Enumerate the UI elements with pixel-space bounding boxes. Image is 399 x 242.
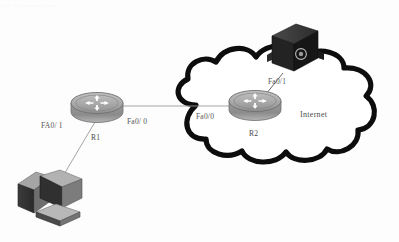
network-topology-diagram: — — —— —— xyxy=(0,0,399,242)
circle-emblem-center-icon xyxy=(299,52,303,56)
iface-label-r2-fa01: Fa0/1 xyxy=(268,78,286,86)
desktop-pc-node[interactable] xyxy=(18,170,82,226)
router-r2[interactable] xyxy=(229,91,281,121)
link-pc1-r1 xyxy=(63,122,95,176)
iface-label-r2-fa00: Fa0/0 xyxy=(196,113,214,121)
iface-label-r1-fa00: Fa0/ 0 xyxy=(127,118,147,126)
iface-label-r1-fa01: FA0/ 1 xyxy=(41,122,63,130)
node-label-r1: R1 xyxy=(91,134,100,142)
node-label-r2: R2 xyxy=(249,130,258,138)
cloud-label-internet: Internet xyxy=(300,111,327,119)
router-r1[interactable] xyxy=(71,93,123,123)
